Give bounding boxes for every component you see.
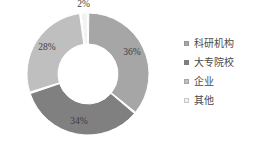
doughnut-svg: 36%34%28%2% [0,0,176,148]
legend-item-label: 大专院校 [194,58,234,68]
legend-swatch-icon [184,60,189,65]
doughnut-data-label: 2% [77,0,90,9]
legend-item[interactable]: 企业 [184,72,254,91]
legend-swatch-icon [184,41,189,46]
doughnut-slice[interactable] [27,14,84,92]
legend-item-label: 企业 [194,77,214,87]
legend-item[interactable]: 科研机构 [184,34,254,53]
chart-legend: 科研机构 大专院校 企业 其他 [184,34,254,110]
legend-item[interactable]: 其他 [184,91,254,110]
legend-swatch-icon [184,79,189,84]
doughnut-data-label: 34% [70,116,88,126]
legend-swatch-icon [184,98,189,103]
doughnut-data-label: 36% [123,47,141,57]
legend-item[interactable]: 大专院校 [184,53,254,72]
doughnut-chart-figure: 36%34%28%2% 科研机构 大专院校 企业 其他 [0,0,254,148]
doughnut-plot-area: 36%34%28%2% [0,0,176,148]
legend-item-label: 科研机构 [194,39,234,49]
doughnut-slice[interactable] [88,13,149,112]
legend-item-label: 其他 [194,96,214,106]
doughnut-data-label: 28% [38,42,56,52]
doughnut-slice-group [27,13,149,135]
